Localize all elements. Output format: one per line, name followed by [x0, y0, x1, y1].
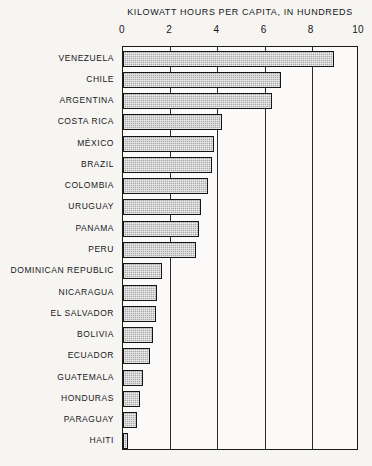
bar	[123, 114, 222, 130]
bar	[123, 370, 143, 386]
bar	[123, 72, 281, 88]
category-label: VENEZUELA	[59, 50, 115, 66]
bar-chart-figure: KILOWATT HOURS PER CAPITA, IN HUNDREDS 0…	[0, 0, 372, 466]
category-label: HAITI	[90, 432, 114, 448]
category-label: ARGENTINA	[59, 92, 114, 108]
bar-row	[123, 136, 357, 152]
bar	[123, 391, 140, 407]
bar	[123, 242, 196, 258]
bar	[123, 157, 212, 173]
bar-row	[123, 327, 357, 343]
category-label: PERU	[88, 241, 114, 257]
bar-row	[123, 242, 357, 258]
bar-row	[123, 157, 357, 173]
bar-row	[123, 114, 357, 130]
category-label: EL SALVADOR	[50, 305, 114, 321]
bar-row	[123, 370, 357, 386]
bar-row	[123, 412, 357, 428]
bar	[123, 136, 214, 152]
bar	[123, 327, 153, 343]
bar-row	[123, 199, 357, 215]
bar	[123, 412, 137, 428]
category-axis-labels: VENEZUELACHILEARGENTINACOSTA RICAMÉXICOB…	[0, 46, 118, 450]
bar-row	[123, 221, 357, 237]
x-tick-label: 2	[166, 24, 172, 35]
category-label: PARAGUAY	[64, 411, 114, 427]
chart-title: KILOWATT HOURS PER CAPITA, IN HUNDREDS	[118, 7, 362, 17]
category-label: COSTA RICA	[58, 113, 114, 129]
bar	[123, 306, 156, 322]
category-label: COLOMBIA	[65, 177, 114, 193]
bar	[123, 51, 334, 67]
bar	[123, 285, 157, 301]
bar	[123, 178, 208, 194]
bar	[123, 263, 162, 279]
x-tick-label: 10	[352, 24, 364, 35]
bars-layer	[123, 47, 357, 449]
x-axis-tick-labels: 0246810	[0, 24, 372, 38]
plot-area	[122, 46, 358, 450]
category-label: CHILE	[86, 71, 114, 87]
category-label: PANAMA	[75, 220, 114, 236]
category-label: URUGUAY	[68, 198, 114, 214]
x-tick-label: 8	[308, 24, 314, 35]
bar	[123, 199, 201, 215]
bar-row	[123, 306, 357, 322]
bar-row	[123, 93, 357, 109]
bar-row	[123, 348, 357, 364]
bar	[123, 221, 199, 237]
bar	[123, 93, 272, 109]
bar-row	[123, 433, 357, 449]
x-tick-label: 4	[213, 24, 219, 35]
bar-row	[123, 285, 357, 301]
category-label: ECUADOR	[68, 347, 114, 363]
bar-row	[123, 178, 357, 194]
x-tick-label: 6	[261, 24, 267, 35]
bar-row	[123, 72, 357, 88]
category-label: BRAZIL	[81, 156, 114, 172]
category-label: BOLIVIA	[77, 326, 114, 342]
x-tick-label: 0	[119, 24, 125, 35]
bar-row	[123, 391, 357, 407]
bar	[123, 348, 150, 364]
category-label: MÉXICO	[77, 135, 114, 151]
category-label: NICARAGUA	[59, 284, 115, 300]
category-label: HONDURAS	[61, 390, 114, 406]
bar	[123, 433, 128, 449]
bar-row	[123, 263, 357, 279]
bar-row	[123, 51, 357, 67]
category-label: GUATEMALA	[57, 369, 114, 385]
category-label: DOMINICAN REPUBLIC	[11, 262, 114, 278]
